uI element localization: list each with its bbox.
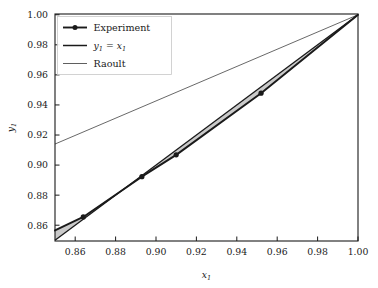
- data-point-marker: [258, 91, 263, 96]
- data-point-marker: [139, 174, 144, 179]
- y-tick-label: 0.94: [27, 99, 48, 110]
- y-axis-tick-labels: 0.860.880.900.920.940.960.981.00: [27, 9, 48, 230]
- y-tick-label: 0.96: [27, 69, 48, 80]
- y-tick-label: 1.00: [27, 9, 48, 20]
- x-tick-label: 0.96: [267, 246, 288, 257]
- legend: Experiment y1 = x1 Raoult: [58, 17, 172, 75]
- x-tick-label: 0.92: [186, 246, 207, 257]
- data-point-marker: [81, 214, 86, 219]
- x-tick-label: 1.00: [348, 246, 369, 257]
- x-tick-label: 0.88: [105, 246, 126, 257]
- x-tick-label: 0.94: [226, 246, 247, 257]
- y-tick-label: 0.98: [27, 39, 48, 50]
- y-tick-label: 0.90: [27, 159, 48, 170]
- x-axis-tick-labels: 0.860.880.900.920.940.960.981.00: [65, 246, 369, 257]
- legend-label-experiment: Experiment: [94, 22, 151, 33]
- x-axis-label: x1: [202, 269, 211, 282]
- y-tick-label: 0.92: [27, 129, 48, 140]
- chart-canvas: 0.860.880.900.920.940.960.981.00 0.860.8…: [0, 0, 378, 288]
- y-tick-label: 0.88: [27, 190, 48, 201]
- data-point-marker: [174, 152, 179, 157]
- y-tick-label: 0.86: [27, 220, 48, 231]
- figure: 0.860.880.900.920.940.960.981.00 0.860.8…: [0, 0, 378, 288]
- y-axis-label: y1: [5, 123, 18, 133]
- legend-label-raoult: Raoult: [94, 58, 126, 69]
- x-tick-label: 0.98: [307, 246, 328, 257]
- legend-marker-experiment: [73, 25, 78, 30]
- x-tick-label: 0.90: [146, 246, 167, 257]
- x-tick-label: 0.86: [65, 246, 86, 257]
